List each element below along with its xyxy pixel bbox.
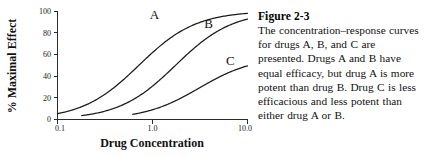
chart-panel: 0 20 40 60 80 100 0.1 1.0 10.0 A B C (0, 0, 256, 157)
caption-body: The concentration–response curves for dr… (258, 23, 422, 122)
curve-drug-c (133, 66, 248, 115)
x-tick-label-1-0: 1.0 (148, 124, 158, 133)
concentration-response-chart: 0 20 40 60 80 100 0.1 1.0 10.0 A B C (0, 0, 256, 157)
curve-label-c: C (226, 53, 235, 68)
y-tick-label-20: 20 (43, 94, 51, 103)
caption-title: Figure 2-3 (258, 9, 422, 23)
x-tick-label-10-0: 10.0 (238, 124, 252, 133)
figure-caption: Figure 2-3 The concentration–response cu… (258, 9, 422, 122)
curve-label-b: B (204, 16, 213, 31)
y-tick-label-0: 0 (47, 115, 51, 124)
y-tick-label-80: 80 (43, 29, 51, 38)
figure-page: 0 20 40 60 80 100 0.1 1.0 10.0 A B C (0, 0, 426, 157)
y-axis-title: % Maximal Effect (5, 19, 19, 114)
y-axis-ticks (54, 11, 58, 120)
curve-drug-a (58, 13, 248, 113)
y-tick-label-60: 60 (43, 50, 51, 59)
y-tick-label-100: 100 (39, 7, 51, 16)
curve-label-a: A (150, 7, 160, 22)
x-axis-title: Drug Concentration (100, 136, 204, 150)
x-axis-ticks (58, 120, 248, 124)
x-tick-label-0-1: 0.1 (55, 124, 65, 133)
curve-drug-b (82, 19, 248, 116)
y-tick-label-40: 40 (43, 72, 51, 81)
